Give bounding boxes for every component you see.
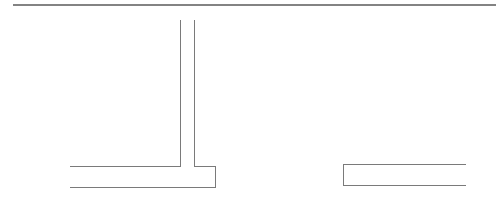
- t-shape-right-edge: [70, 20, 215, 187]
- diagram-canvas: [0, 0, 497, 198]
- t-shape-left-edge: [70, 20, 180, 166]
- line-drawing: [0, 0, 497, 198]
- bracket-shape: [343, 164, 466, 185]
